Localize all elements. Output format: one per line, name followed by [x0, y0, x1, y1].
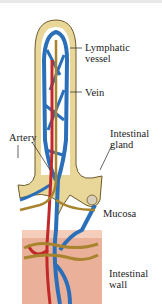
label-lymphatic-vessel: Lymphatic vessel — [85, 42, 130, 64]
label-mucosa: Mucosa — [103, 208, 136, 219]
villus-diagram — [0, 0, 162, 304]
intestinal-wall — [22, 230, 102, 304]
label-vein: Vein — [85, 87, 104, 98]
label-intestinal-wall: Intestinal wall — [109, 268, 148, 290]
label-artery: Artery — [9, 132, 36, 143]
label-intestinal-gland: Intestinal gland — [110, 128, 149, 150]
